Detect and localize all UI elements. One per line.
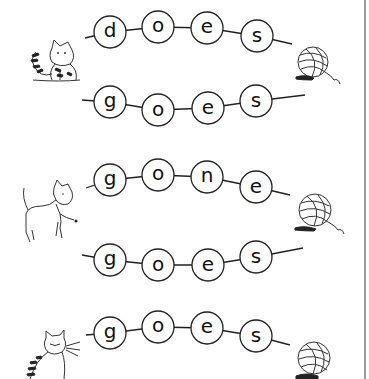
bead-letter: e xyxy=(202,252,214,276)
bead-letter: e xyxy=(250,174,262,198)
bead-letter: o xyxy=(152,161,164,185)
bead-letter: e xyxy=(202,95,214,119)
bead-2: o xyxy=(142,94,174,126)
bead-letter: g xyxy=(104,246,117,270)
bead-1: d xyxy=(94,16,126,48)
bead-1: g xyxy=(94,317,126,349)
bead-letter: e xyxy=(201,314,213,338)
bead-letter: g xyxy=(104,319,117,343)
bead-letter: n xyxy=(201,163,214,187)
white-kitten-icon xyxy=(24,180,78,242)
bead-letter: o xyxy=(152,313,164,337)
bead-2: o xyxy=(142,249,174,281)
bead-letter: o xyxy=(152,13,164,37)
bead-letter: s xyxy=(251,244,261,268)
bead-3: n xyxy=(191,161,223,193)
worksheet-canvas: d o e s g o e s g o n e g o e s xyxy=(0,0,369,379)
bead-4: e xyxy=(240,171,272,203)
bead-3: e xyxy=(191,312,223,344)
striped-kitten-icon xyxy=(31,40,80,81)
bead-letter: s xyxy=(251,323,261,347)
bead-string-row-3: g o n e xyxy=(86,159,290,203)
bead-1: g xyxy=(94,244,126,276)
bead-letter: s xyxy=(251,88,261,112)
bead-string-row-2: g o e s xyxy=(82,85,305,126)
yarn-ball-icon xyxy=(296,47,340,84)
bead-letter: o xyxy=(152,97,164,121)
bead-letter: g xyxy=(104,88,117,112)
bead-string-row-4: g o e s xyxy=(82,241,303,281)
bead-letter: e xyxy=(201,14,213,38)
bead-letter: s xyxy=(252,23,262,47)
bead-4: s xyxy=(240,241,272,273)
bead-3: e xyxy=(192,92,224,124)
bead-letter: g xyxy=(104,166,117,190)
tabby-cat-icon xyxy=(27,330,80,379)
bead-3: e xyxy=(191,12,223,44)
yarn-ball-icon xyxy=(295,194,344,234)
bead-3: e xyxy=(192,249,224,281)
page-edge-border xyxy=(364,0,366,379)
worksheet-page: d o e s g o e s g o n e g o e s xyxy=(0,0,369,379)
bead-letter: o xyxy=(152,252,164,276)
yarn-ball-icon xyxy=(296,342,330,379)
bead-2: o xyxy=(142,11,174,43)
bead-string-row-5: g o e s xyxy=(86,311,290,352)
bead-1: g xyxy=(94,164,126,196)
bead-letter: d xyxy=(104,18,117,42)
bead-4: s xyxy=(241,20,273,52)
bead-string-row-1: d o e s xyxy=(85,11,292,52)
bead-4: s xyxy=(240,320,272,352)
bead-1: g xyxy=(94,86,126,118)
bead-2: o xyxy=(142,311,174,343)
bead-4: s xyxy=(240,85,272,117)
bead-2: o xyxy=(142,159,174,191)
